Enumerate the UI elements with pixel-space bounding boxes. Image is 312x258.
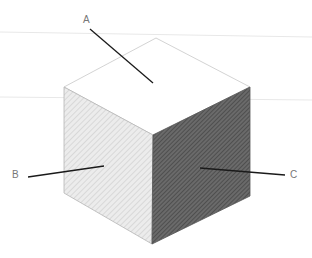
label-a: A — [83, 15, 90, 25]
cube-diagram — [0, 0, 312, 258]
guide-line-upper — [0, 32, 312, 37]
label-c: C — [290, 170, 297, 180]
label-b: B — [12, 170, 19, 180]
